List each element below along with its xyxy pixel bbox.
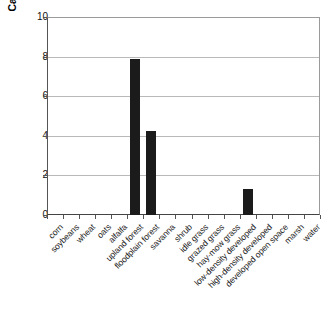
x-tick-mark <box>63 215 64 219</box>
x-tick-mark <box>256 215 257 219</box>
bar <box>243 189 253 215</box>
chart-figure: Carolina Wrens/100 acres 0246810 cornsoy… <box>0 0 331 312</box>
x-axis-tick-marks <box>47 215 320 220</box>
x-tick-mark <box>175 215 176 219</box>
x-tick-mark <box>127 215 128 219</box>
y-tick-label: 6 <box>8 91 48 101</box>
bar-slot <box>127 17 143 215</box>
x-tick-mark <box>288 215 289 219</box>
x-tick-mark <box>320 215 321 219</box>
y-tick-label: 4 <box>8 131 48 141</box>
x-tick-mark <box>272 215 273 219</box>
bar-slot <box>224 17 240 215</box>
y-tick-label: 2 <box>8 170 48 180</box>
bar-slot <box>95 17 111 215</box>
x-tick-mark <box>159 215 160 219</box>
bar-slot <box>272 17 288 215</box>
x-tick-mark <box>95 215 96 219</box>
x-tick-mark <box>224 215 225 219</box>
x-tick-mark <box>304 215 305 219</box>
y-tick-label: 10 <box>8 12 48 22</box>
bar-slot <box>143 17 159 215</box>
bar-slot <box>159 17 175 215</box>
bar-slot <box>192 17 208 215</box>
x-tick-mark <box>240 215 241 219</box>
bar-slot <box>304 17 320 215</box>
x-tick-mark <box>143 215 144 219</box>
x-tick-label: water <box>300 222 322 244</box>
bar <box>146 131 156 215</box>
bar-slot <box>175 17 191 215</box>
bar-slot <box>47 17 63 215</box>
bar-slot <box>288 17 304 215</box>
bar-series <box>47 17 320 215</box>
bar-slot <box>63 17 79 215</box>
x-tick-mark <box>208 215 209 219</box>
x-tick-mark <box>47 215 48 219</box>
y-tick-label: 8 <box>8 52 48 62</box>
bar-slot <box>111 17 127 215</box>
x-tick-mark <box>79 215 80 219</box>
bar-slot <box>79 17 95 215</box>
bar-slot <box>208 17 224 215</box>
bar <box>130 59 140 215</box>
y-axis-title: Carolina Wrens/100 acres <box>4 0 20 49</box>
y-tick-label: 0 <box>8 210 48 220</box>
bar-slot <box>256 17 272 215</box>
x-tick-mark <box>111 215 112 219</box>
x-tick-mark <box>192 215 193 219</box>
bar-slot <box>240 17 256 215</box>
